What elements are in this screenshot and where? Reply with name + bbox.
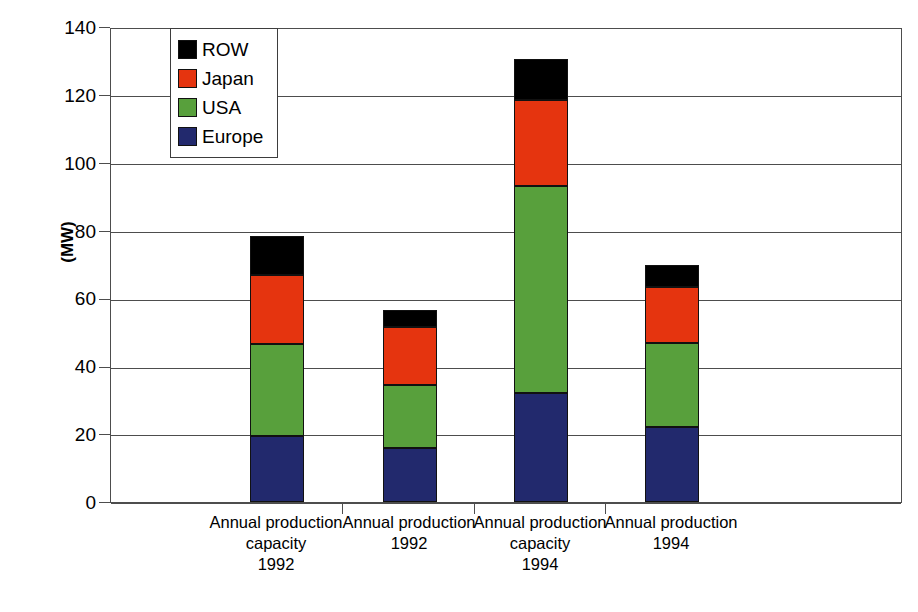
- legend-item-usa: USA: [178, 93, 277, 122]
- y-tick-mark-100: [99, 163, 110, 164]
- legend-label-japan: Japan: [202, 69, 254, 88]
- bar-segment-row: [383, 310, 437, 327]
- bar-segment-japan: [514, 100, 568, 187]
- bar-segment-japan: [250, 275, 304, 345]
- y-tick-mark-0: [99, 502, 110, 503]
- bar-3: [514, 59, 568, 502]
- bar-1: [250, 236, 304, 502]
- y-tick-label-0: 0: [24, 493, 96, 512]
- legend-label-row: ROW: [202, 40, 248, 59]
- y-tick-mark-40: [99, 367, 110, 368]
- gridline-80: [111, 232, 901, 233]
- y-axis-title: (MW): [58, 182, 78, 302]
- x-axis-label-4: Annual production 1994: [576, 512, 766, 554]
- bar-2: [383, 310, 437, 502]
- gridline-100: [111, 164, 901, 165]
- y-tick-label-80: 80: [24, 222, 96, 241]
- y-tick-label-140: 140: [24, 18, 96, 37]
- gridline-40: [111, 368, 901, 369]
- bar-segment-japan: [383, 327, 437, 385]
- legend-item-europe: Europe: [178, 122, 277, 151]
- bar-segment-europe: [383, 448, 437, 502]
- bar-segment-japan: [645, 287, 699, 343]
- bar-segment-europe: [514, 393, 568, 502]
- legend-swatch-row: [178, 40, 197, 59]
- legend-item-japan: Japan: [178, 64, 277, 93]
- bar-4: [645, 265, 699, 503]
- stacked-bar-chart: (MW) 140120100806040200 Annual productio…: [0, 0, 918, 612]
- bar-segment-row: [645, 265, 699, 287]
- y-tick-label-100: 100: [24, 154, 96, 173]
- legend-swatch-japan: [178, 69, 197, 88]
- gridline-0: [111, 503, 901, 504]
- y-tick-mark-80: [99, 231, 110, 232]
- legend-label-usa: USA: [202, 98, 241, 117]
- y-tick-mark-140: [99, 27, 110, 28]
- legend-label-europe: Europe: [202, 127, 263, 146]
- y-tick-mark-120: [99, 95, 110, 96]
- bar-segment-usa: [645, 343, 699, 428]
- legend-item-row: ROW: [178, 35, 277, 64]
- y-tick-label-120: 120: [24, 86, 96, 105]
- legend-item-group: ROWJapanUSAEurope: [178, 35, 277, 151]
- gridline-60: [111, 300, 901, 301]
- y-tick-label-40: 40: [24, 357, 96, 376]
- bar-segment-usa: [250, 344, 304, 436]
- bar-segment-row: [250, 236, 304, 275]
- y-tick-label-60: 60: [24, 289, 96, 308]
- bar-segment-usa: [514, 186, 568, 393]
- y-tick-mark-20: [99, 434, 110, 435]
- legend-swatch-europe: [178, 127, 197, 146]
- legend: ROWJapanUSAEurope: [170, 28, 278, 158]
- bar-segment-europe: [645, 427, 699, 502]
- y-tick-label-20: 20: [24, 425, 96, 444]
- bar-segment-usa: [383, 385, 437, 448]
- gridline-20: [111, 435, 901, 436]
- bar-segment-europe: [250, 436, 304, 502]
- y-tick-mark-60: [99, 299, 110, 300]
- legend-swatch-usa: [178, 98, 197, 117]
- bar-segment-row: [514, 59, 568, 100]
